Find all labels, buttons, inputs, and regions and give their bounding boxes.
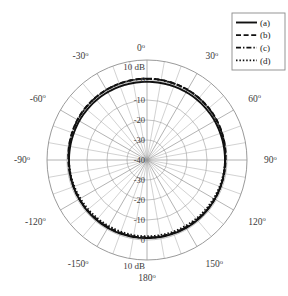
radial-tick-label: -10	[134, 215, 145, 225]
angle-tick-label: 30o	[206, 50, 219, 61]
radial-tick-label: -30	[134, 175, 145, 185]
polar-chart-canvas: 10 dB0-10-20-30-40-30-20-10010 dB 0o30o6…	[0, 0, 288, 296]
radial-tick-label: -30	[134, 135, 145, 145]
angle-tick-label: -120o	[25, 215, 46, 226]
radial-tick-label: -20	[134, 195, 145, 205]
radial-tick-label: 0	[141, 75, 145, 85]
radial-unit-label-top: 10 dB	[123, 62, 145, 72]
angle-tick-label: 150o	[206, 258, 224, 269]
radial-tick-label: -20	[134, 115, 145, 125]
radial-tick-label: -10	[134, 95, 145, 105]
angle-tick-label: -150o	[68, 258, 89, 269]
legend-label-c: (c)	[260, 43, 270, 53]
angle-tick-label: 180o	[138, 272, 156, 283]
legend-box[interactable]: (a)(b)(c)(d)	[232, 13, 285, 70]
radial-unit-label-bottom: 10 dB	[123, 261, 145, 271]
radial-tick-label: 0	[141, 235, 145, 245]
legend-label-a: (a)	[260, 18, 270, 28]
angle-tick-label: 60o	[248, 92, 261, 103]
legend-label-d: (d)	[260, 56, 271, 66]
angle-tick-label: -90o	[14, 154, 30, 165]
angle-tick-label: 0o	[137, 42, 145, 53]
grid-layer	[47, 60, 247, 260]
angle-tick-label: 90o	[264, 154, 277, 165]
angle-tick-label: -30o	[73, 50, 89, 61]
polar-plot-figure: 10 dB0-10-20-30-40-30-20-10010 dB 0o30o6…	[0, 0, 288, 296]
angle-tick-label: 120o	[248, 215, 265, 226]
legend-label-b: (b)	[260, 30, 271, 40]
angle-tick-label: -60o	[30, 92, 46, 103]
radial-tick-label: -40	[134, 155, 145, 165]
